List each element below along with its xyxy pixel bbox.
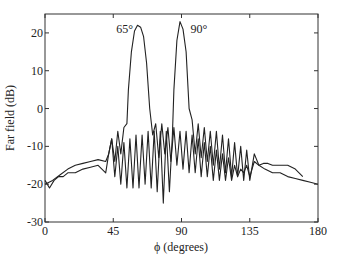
beam-label: 65°: [116, 22, 133, 36]
plot-frame: [45, 14, 318, 222]
x-tick-label: 0: [42, 224, 48, 238]
y-tick-label: -30: [27, 215, 43, 229]
annotations: 65°90°: [116, 22, 207, 36]
x-tick-label: 45: [107, 224, 119, 238]
y-tick-label: 10: [31, 64, 43, 78]
series-layer: [45, 22, 318, 204]
series-line-90deg: [45, 22, 318, 204]
y-tick-label: -20: [27, 177, 43, 191]
x-tick-label: 90: [176, 224, 188, 238]
plot-area: -30-20-1001020 04590135180 65°90°: [27, 14, 327, 238]
y-tick-label: 0: [37, 102, 43, 116]
y-tick-label: -10: [27, 139, 43, 153]
y-axis-label: Far field (dB): [3, 85, 17, 151]
far-field-chart: -30-20-1001020 04590135180 65°90° ϕ (deg…: [0, 0, 338, 259]
x-tick-label: 135: [241, 224, 259, 238]
y-tick-label: 20: [31, 26, 43, 40]
x-axis-label: ϕ (degrees): [154, 240, 208, 254]
beam-label: 90°: [191, 22, 208, 36]
x-axis-ticks: 04590135180: [42, 14, 327, 238]
x-tick-label: 180: [309, 224, 327, 238]
